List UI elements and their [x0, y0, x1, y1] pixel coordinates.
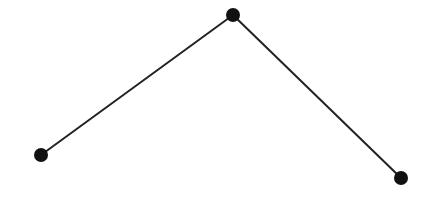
node-n1	[34, 148, 48, 162]
node-n2	[226, 8, 240, 22]
nodes-group	[34, 8, 408, 185]
edge-n2-n3	[233, 15, 401, 178]
node-n3	[394, 171, 408, 185]
edges-group	[41, 15, 401, 178]
graph-diagram	[0, 0, 444, 224]
edge-n1-n2	[41, 15, 233, 155]
